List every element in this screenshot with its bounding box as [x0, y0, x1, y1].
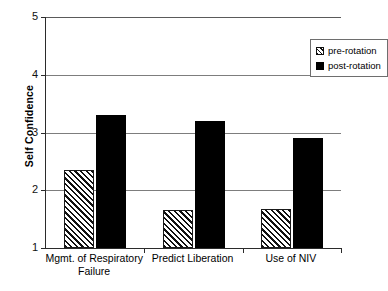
y-tick-label-4: 4 — [20, 69, 38, 80]
chart-legend: pre-rotation post-rotation — [310, 39, 388, 77]
bar-pre-rotation-1 — [64, 170, 94, 248]
gridline-4 — [46, 75, 341, 76]
y-tick-mark-5 — [41, 17, 46, 18]
x-axis-label-1: Mgmt. of RespiratoryFailure — [45, 252, 143, 277]
gridline-5 — [46, 17, 341, 18]
x-axis-label-2: Predict Liberation — [143, 252, 241, 265]
plot-area: 5 4 3 2 1 pre-rotation post-rotation — [45, 17, 341, 249]
y-tick-mark-3 — [41, 133, 46, 134]
x-tick-mark-3 — [341, 248, 342, 253]
legend-label-pre-rotation: pre-rotation — [328, 46, 377, 56]
bar-pre-rotation-3 — [261, 209, 291, 248]
legend-item-pre-rotation: pre-rotation — [316, 44, 381, 57]
y-tick-mark-2 — [41, 190, 46, 191]
legend-label-post-rotation: post-rotation — [328, 61, 381, 71]
legend-swatch-solid-icon — [316, 62, 324, 70]
x-axis-label-3: Use of NIV — [242, 252, 340, 265]
x-axis-label-line: Use of NIV — [242, 252, 340, 265]
y-tick-label-5: 5 — [20, 11, 38, 22]
bar-post-rotation-1 — [96, 115, 126, 248]
gridline-3 — [46, 133, 341, 134]
y-tick-label-2: 2 — [20, 184, 38, 195]
x-axis-label-line: Mgmt. of Respiratory — [45, 252, 143, 265]
bar-post-rotation-3 — [293, 138, 323, 248]
bar-pre-rotation-2 — [163, 210, 193, 248]
legend-item-post-rotation: post-rotation — [316, 59, 381, 72]
x-axis-label-line: Predict Liberation — [143, 252, 241, 265]
legend-swatch-hatched-icon — [316, 47, 324, 55]
x-axis-labels: Mgmt. of RespiratoryFailurePredict Liber… — [45, 252, 340, 288]
y-tick-label-3: 3 — [20, 127, 38, 138]
bar-post-rotation-2 — [195, 121, 225, 248]
y-tick-mark-1 — [41, 248, 46, 249]
y-tick-mark-4 — [41, 75, 46, 76]
y-tick-label-1: 1 — [20, 242, 38, 253]
x-axis-label-line: Failure — [45, 265, 143, 278]
